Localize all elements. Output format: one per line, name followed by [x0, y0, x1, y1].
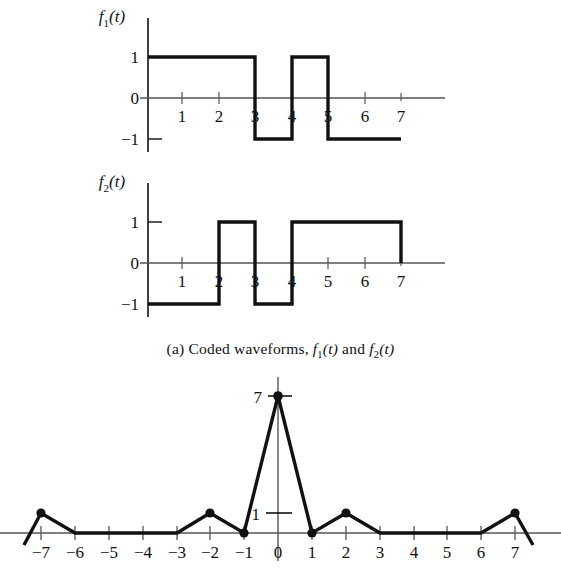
corr-xlabel-5: 5: [443, 543, 452, 562]
corr-xlabel-neg1: −1: [235, 543, 253, 562]
corr-xlabel-neg5: −5: [100, 543, 118, 562]
corr-ylabel-7: 7: [254, 388, 263, 407]
f1-ylabel-0: 0: [131, 89, 140, 108]
corr-xlabel-2: 2: [342, 543, 351, 562]
corr-xlabel-3: 3: [376, 543, 385, 562]
caption-prefix: (a) Coded waveforms,: [167, 340, 313, 357]
panel-f2: f2(t) 1 0 −1 1 2 3 4 5 6 7: [0, 165, 470, 335]
f1-xlabel-6: 6: [361, 107, 370, 126]
f1-xlabel-3: 3: [251, 107, 260, 126]
corr-xlabel-neg2: −2: [201, 543, 219, 562]
figure-caption: (a) Coded waveforms, f1(t) and f2(t): [0, 340, 561, 360]
f1-ylabel-1: 1: [131, 48, 140, 67]
corr-xlabel-neg6: −6: [66, 543, 84, 562]
corr-ylabel-1: 1: [252, 505, 261, 524]
f2-ylabel-0: 0: [131, 254, 140, 273]
corr-xlabel-0: 0: [274, 543, 283, 562]
f2-ylabel-neg1: −1: [121, 295, 139, 314]
f1-ylabel-neg1: −1: [121, 130, 139, 149]
panel-correlation: 7 1 −7 −6 −5 −4 −3 −2 −1 0 1 2 3 4 5 6 7: [0, 375, 561, 569]
f2-xlabel-2: 2: [215, 272, 224, 291]
corr-xlabel-neg4: −4: [134, 543, 153, 562]
corr-xlabel-7: 7: [511, 543, 520, 562]
f2-xlabel-4: 4: [288, 272, 297, 291]
corr-xlabel-neg7: −7: [32, 543, 51, 562]
f2-ylabel-1: 1: [131, 213, 140, 232]
corr-xlabel-neg3: −3: [168, 543, 186, 562]
f2-xlabel-3: 3: [251, 272, 260, 291]
f2-xlabel-6: 6: [361, 272, 370, 291]
f1-xlabel-5: 5: [324, 107, 333, 126]
panel-f1: f1(t) 1 0 −1 1 2 3 4 5 6 7: [0, 0, 470, 170]
f1-ylabel: f1(t): [99, 7, 126, 29]
f2-ylabel: f2(t): [99, 172, 126, 194]
corr-point-7: [510, 508, 519, 517]
f1-xlabel-4: 4: [288, 107, 297, 126]
caption-f2-arg: (t): [379, 340, 394, 357]
f2-xlabel-7: 7: [397, 272, 406, 291]
corr-point-neg1: [239, 528, 248, 537]
corr-point-neg7: [36, 508, 45, 517]
f2-xlabel-1: 1: [178, 272, 187, 291]
f1-xlabel-1: 1: [178, 107, 187, 126]
caption-conjunction: and: [338, 340, 369, 357]
plot-f1: f1(t) 1 0 −1 1 2 3 4 5 6 7: [0, 0, 470, 170]
corr-point-0: [273, 391, 283, 401]
corr-point-2: [341, 508, 350, 517]
corr-point-neg2: [205, 508, 214, 517]
corr-xlabel-4: 4: [410, 543, 419, 562]
caption-f1-arg: (t): [323, 340, 338, 357]
figure-coded-waveforms: f1(t) 1 0 −1 1 2 3 4 5 6 7: [0, 0, 561, 569]
corr-xlabel-6: 6: [477, 543, 486, 562]
f2-xlabel-5: 5: [324, 272, 333, 291]
f1-xlabel-7: 7: [397, 107, 406, 126]
f1-xlabel-2: 2: [215, 107, 224, 126]
plot-correlation: 7 1 −7 −6 −5 −4 −3 −2 −1 0 1 2 3 4 5 6 7: [0, 375, 561, 569]
plot-f2: f2(t) 1 0 −1 1 2 3 4 5 6 7: [0, 165, 470, 335]
corr-xlabel-1: 1: [308, 543, 317, 562]
corr-point-1: [307, 528, 316, 537]
